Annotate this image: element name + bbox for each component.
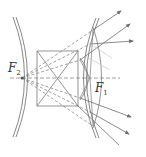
optics-diagram [0,0,146,157]
label-f2: F2 [8,62,21,77]
label-f2-sub: 2 [16,69,20,77]
label-f1-sub: 1 [103,89,107,97]
label-f1: F1 [95,82,108,97]
right-arc [93,27,102,128]
diagram-canvas: F2 F1 [0,0,146,157]
f2-point [21,77,24,80]
